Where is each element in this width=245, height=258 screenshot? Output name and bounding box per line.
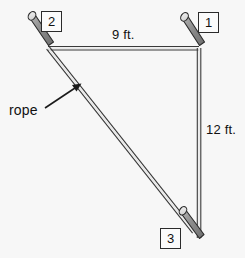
post-label-box-3: 3	[160, 228, 181, 249]
rope-annotation-label: rope	[9, 102, 38, 118]
post-label-box-1: 1	[198, 12, 219, 33]
dimension-label-right: 12 ft.	[206, 122, 236, 137]
figure-canvas: 9 ft. 12 ft. rope 1 2 3	[0, 0, 245, 258]
rope-segment-diagonal	[47, 47, 196, 233]
rope-segment-top	[48, 47, 199, 51]
post-stake-3	[178, 205, 204, 238]
rope-segment-right	[197, 48, 201, 238]
rope-leader-line	[45, 84, 82, 109]
post-label-box-2: 2	[41, 11, 62, 32]
dimension-label-top: 9 ft.	[112, 27, 135, 42]
